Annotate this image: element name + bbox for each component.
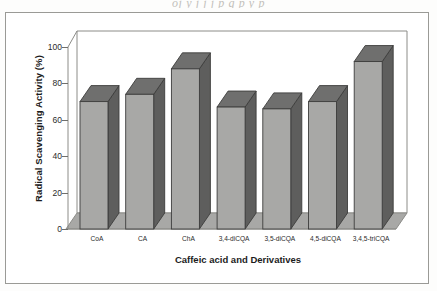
bar-front-face[interactable]: 4,5-diCQA: 70 (309, 102, 337, 229)
bar-top-face (309, 86, 348, 102)
bar-column: ChA: 88 (6, 13, 430, 285)
bar-column: 4,5-diCQA: 70 (6, 13, 430, 285)
y-tick-mark (62, 229, 68, 230)
bar-front-face[interactable]: 3,5-diCQA: 66 (263, 109, 291, 229)
bar-top-face (354, 46, 393, 62)
y-axis-title: Radical Scavenging Activity (%) (33, 29, 44, 229)
bar-front-face[interactable]: 3,4-diCQA: 67 (217, 107, 245, 229)
bar-front-face[interactable]: CA: 74 (126, 94, 154, 229)
x-tick-label: 3,4-diCQA (219, 235, 250, 242)
bar-top-face (80, 86, 119, 102)
depth-edge-left (68, 31, 77, 47)
bar-column: 3,4-diCQA: 67 (6, 13, 430, 285)
bar-side-face (108, 86, 119, 229)
bar-front-face[interactable]: CoA: 70 (80, 102, 108, 229)
y-tick-mark (62, 120, 68, 121)
bar-column: CA: 74 (6, 13, 430, 285)
bar-side-face (337, 86, 348, 229)
chart-3d-scene (6, 13, 430, 285)
bar-column: 3,5-diCQA: 66 (6, 13, 430, 285)
x-tick-label: 3,4,5-triCQA (353, 235, 390, 242)
bar-front-face[interactable]: ChA: 88 (171, 69, 199, 229)
bar-side-face (199, 53, 210, 229)
x-tick-label: CoA (91, 235, 104, 242)
y-tick-mark (62, 83, 68, 84)
bar-column: CoA: 70 (6, 13, 430, 285)
back-wall (77, 31, 407, 213)
bar-top-face (217, 91, 256, 107)
bar-top-face (263, 93, 302, 109)
bar-side-face (154, 78, 165, 229)
y-tick-mark (62, 193, 68, 194)
bar-side-face (291, 93, 302, 229)
scanned-page: oj y j j j p g p y p 020406080100 (0, 0, 437, 291)
x-tick-label: ChA (182, 235, 195, 242)
x-axis-title: Caffeic acid and Derivatives (68, 254, 408, 265)
x-tick-label: 3,5-diCQA (264, 235, 295, 242)
bar-side-face (245, 91, 256, 229)
bar-chart-plot: 020406080100 Radical Scavenging Activity… (6, 13, 430, 285)
scan-artifact-text: oj y j j j p g p y p (0, 0, 437, 8)
y-tick-mark (62, 47, 68, 48)
bar-column: 3,4,5-triCQA: 92 (6, 13, 430, 285)
y-tick-mark (62, 156, 68, 157)
x-tick-label: 4,5-diCQA (310, 235, 341, 242)
bar-top-face (171, 53, 210, 69)
bar-top-face (126, 78, 165, 94)
bar-front-face[interactable]: 3,4,5-triCQA: 92 (354, 62, 382, 229)
bar-side-face (382, 46, 393, 229)
floor-plane (66, 213, 407, 229)
x-tick-label: CA (138, 235, 147, 242)
figure-frame: 020406080100 Radical Scavenging Activity… (5, 12, 429, 284)
